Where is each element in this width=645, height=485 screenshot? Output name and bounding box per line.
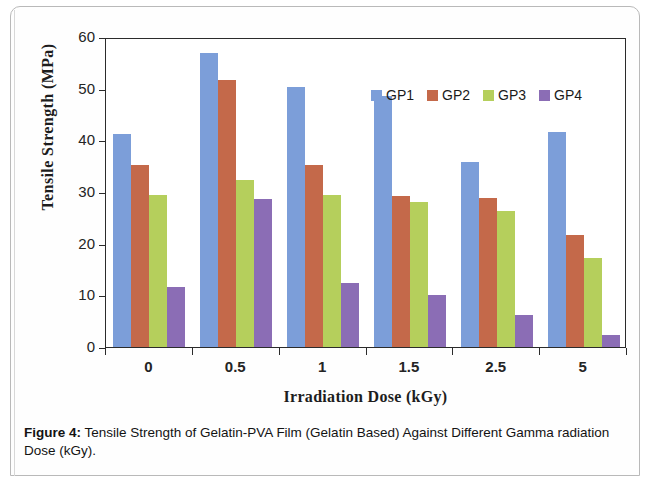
bar-gp3 bbox=[410, 202, 428, 347]
bar-chart-figure: Tensile Strength (MPa) 0102030405060 GP1… bbox=[0, 0, 645, 485]
legend-item-gp4: GP4 bbox=[539, 87, 582, 103]
x-axis-title: Irradiation Dose (kGy) bbox=[105, 388, 626, 406]
bar-gp2 bbox=[131, 165, 149, 347]
bar-gp2 bbox=[305, 165, 323, 347]
x-axis-tick-label: 1 bbox=[279, 358, 366, 375]
bar-gp2 bbox=[479, 198, 497, 347]
caption-text: Tensile Strength of Gelatin-PVA Film (Ge… bbox=[24, 425, 609, 458]
x-axis-tick-label: 0.5 bbox=[192, 358, 279, 375]
bar-group bbox=[367, 39, 454, 347]
figure-page: Tensile Strength (MPa) 0102030405060 GP1… bbox=[0, 0, 645, 485]
legend-swatch-icon bbox=[427, 90, 438, 101]
y-axis-title: Tensile Strength (MPa) bbox=[39, 17, 57, 237]
bar-gp3 bbox=[236, 180, 254, 347]
legend-label: GP2 bbox=[442, 87, 470, 103]
bar-group bbox=[540, 39, 627, 347]
figure-number: Figure 4: bbox=[24, 425, 81, 440]
bar-gp1 bbox=[113, 134, 131, 347]
bar-group bbox=[280, 39, 367, 347]
bar-group bbox=[106, 39, 193, 347]
legend-label: GP1 bbox=[386, 87, 414, 103]
legend-item-gp2: GP2 bbox=[427, 87, 470, 103]
plot-area: GP1GP2GP3GP4 bbox=[105, 38, 626, 348]
figure-caption: Figure 4: Tensile Strength of Gelatin-PV… bbox=[24, 424, 624, 460]
x-axis-tick bbox=[366, 348, 367, 355]
legend-label: GP3 bbox=[498, 87, 526, 103]
y-axis-tick-label: 10 bbox=[49, 286, 95, 303]
x-axis-tick bbox=[279, 348, 280, 355]
bar-gp1 bbox=[200, 53, 218, 348]
bar-gp3 bbox=[497, 211, 515, 347]
bar-group bbox=[453, 39, 540, 347]
legend-swatch-icon bbox=[539, 90, 550, 101]
legend-label: GP4 bbox=[554, 87, 582, 103]
bar-gp4 bbox=[428, 295, 446, 347]
bar-gp1 bbox=[374, 96, 392, 347]
bar-gp4 bbox=[254, 199, 272, 347]
bar-gp4 bbox=[167, 287, 185, 347]
x-axis-tick bbox=[539, 348, 540, 355]
y-axis-tick-label: 30 bbox=[49, 183, 95, 200]
chart-legend: GP1GP2GP3GP4 bbox=[371, 87, 582, 103]
bar-gp4 bbox=[515, 315, 533, 347]
legend-item-gp1: GP1 bbox=[371, 87, 414, 103]
x-axis-tick-label: 2.5 bbox=[452, 358, 539, 375]
bar-gp3 bbox=[323, 195, 341, 347]
legend-swatch-icon bbox=[371, 90, 382, 101]
x-axis-tick bbox=[105, 348, 106, 355]
bar-gp2 bbox=[392, 196, 410, 347]
x-axis-tick bbox=[452, 348, 453, 355]
bar-gp3 bbox=[584, 258, 602, 347]
bar-gp4 bbox=[602, 335, 620, 347]
bar-gp2 bbox=[218, 80, 236, 347]
x-axis-tick-label: 0 bbox=[105, 358, 192, 375]
x-axis-tick bbox=[626, 348, 627, 355]
x-axis-tick-label: 5 bbox=[539, 358, 626, 375]
bar-gp1 bbox=[548, 132, 566, 347]
bar-group bbox=[193, 39, 280, 347]
x-axis-tick bbox=[192, 348, 193, 355]
bar-gp2 bbox=[566, 235, 584, 347]
bar-gp1 bbox=[287, 87, 305, 347]
bar-gp1 bbox=[461, 162, 479, 347]
bar-gp4 bbox=[341, 283, 359, 347]
legend-item-gp3: GP3 bbox=[483, 87, 526, 103]
y-axis-tick-label: 40 bbox=[49, 131, 95, 148]
y-axis-tick-label: 0 bbox=[49, 338, 95, 355]
y-axis-tick-label: 50 bbox=[49, 80, 95, 97]
y-axis-tick-label: 20 bbox=[49, 235, 95, 252]
bars-layer bbox=[106, 39, 625, 347]
x-axis-tick-label: 1.5 bbox=[366, 358, 453, 375]
legend-swatch-icon bbox=[483, 90, 494, 101]
bar-gp3 bbox=[149, 195, 167, 347]
y-axis-tick-label: 60 bbox=[49, 28, 95, 45]
